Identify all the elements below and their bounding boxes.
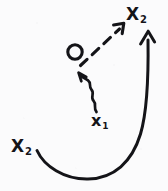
dashed-arrow-icon (81, 23, 124, 65)
label-intermediate-state-base: x (91, 111, 101, 130)
label-source-state-base: X (11, 136, 24, 156)
label-target-state: X2 (126, 6, 146, 23)
diagram-svg (0, 0, 168, 191)
open-circle-node-icon (68, 45, 82, 59)
label-intermediate-state-subscript: 1 (102, 121, 108, 131)
diagram-canvas: X2 x1 X2 (0, 0, 168, 191)
wavy-arrow-icon (79, 73, 97, 112)
label-source-state: X2 (11, 138, 31, 155)
label-target-state-base: X (126, 4, 139, 24)
label-target-state-subscript: 2 (140, 14, 147, 25)
label-intermediate-state: x1 (91, 113, 108, 129)
label-source-state-subscript: 2 (25, 146, 32, 157)
